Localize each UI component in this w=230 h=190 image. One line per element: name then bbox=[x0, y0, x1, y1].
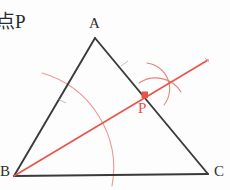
compass-arc-from-B bbox=[42, 73, 114, 186]
tick-on-AB bbox=[58, 99, 66, 103]
tick-on-AC bbox=[121, 61, 128, 66]
side-AB bbox=[14, 38, 95, 176]
point-label-p: P bbox=[138, 100, 146, 117]
vertex-label-b: B bbox=[0, 163, 10, 180]
geometry-figure bbox=[0, 0, 230, 190]
point-P-marker bbox=[142, 92, 149, 99]
diagram-canvas: 点P A B C P bbox=[0, 0, 230, 190]
vertex-label-c: C bbox=[214, 163, 224, 180]
bisector-ray bbox=[14, 60, 208, 176]
compass-arc-upper bbox=[147, 63, 170, 105]
side-AC bbox=[95, 38, 208, 174]
side-BC bbox=[14, 174, 208, 176]
vertex-label-a: A bbox=[89, 15, 100, 32]
